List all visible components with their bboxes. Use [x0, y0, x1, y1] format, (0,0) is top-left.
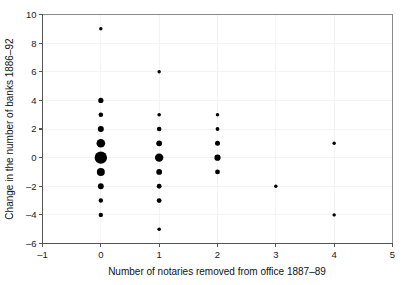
- y-axis-title: Change in the number of banks 1886–92: [4, 38, 15, 220]
- x-tick-label: 1: [157, 249, 162, 260]
- x-tick-label: –1: [37, 249, 48, 260]
- x-tick-label: 3: [273, 249, 278, 260]
- data-point: [216, 127, 220, 131]
- y-tick-label: –6: [26, 238, 37, 249]
- x-tick-label: 5: [390, 249, 395, 260]
- data-point: [99, 213, 103, 217]
- data-point: [99, 198, 103, 202]
- data-point: [97, 139, 106, 148]
- data-point: [215, 170, 220, 175]
- scatter-plot-figure: –1012345 –6–4–20246810 Number of notarie…: [0, 0, 403, 285]
- data-point: [99, 27, 102, 30]
- y-tick-label: –4: [26, 209, 37, 220]
- data-point: [99, 112, 104, 117]
- data-point: [274, 185, 277, 188]
- data-point: [332, 213, 335, 216]
- data-point: [98, 126, 104, 132]
- data-point: [156, 169, 162, 175]
- y-tick-label: 10: [26, 9, 37, 20]
- y-tick-label: 8: [31, 38, 36, 49]
- data-point: [157, 127, 162, 132]
- x-tick-label: 2: [215, 249, 220, 260]
- data-point: [157, 70, 160, 73]
- data-point: [157, 184, 162, 189]
- data-point: [155, 153, 163, 161]
- data-point: [157, 198, 162, 203]
- chart-canvas: –1012345 –6–4–20246810 Number of notarie…: [0, 0, 403, 285]
- data-point: [332, 142, 335, 145]
- data-point: [156, 140, 162, 146]
- data-point: [215, 141, 220, 146]
- y-tick-label: 6: [31, 66, 36, 77]
- data-point: [216, 113, 219, 116]
- data-point: [98, 183, 104, 189]
- data-point: [97, 168, 105, 176]
- data-point: [157, 227, 161, 231]
- y-tick-label: –2: [26, 181, 37, 192]
- data-point: [95, 151, 107, 163]
- y-tick-label: 0: [31, 152, 36, 163]
- y-tick-label: 4: [31, 95, 36, 106]
- data-point: [157, 113, 161, 117]
- x-tick-label: 0: [98, 249, 103, 260]
- x-axis-title: Number of notaries removed from office 1…: [108, 266, 326, 277]
- data-point: [98, 98, 103, 103]
- data-point: [214, 155, 220, 161]
- x-tick-label: 4: [332, 249, 337, 260]
- y-tick-label: 2: [31, 123, 36, 134]
